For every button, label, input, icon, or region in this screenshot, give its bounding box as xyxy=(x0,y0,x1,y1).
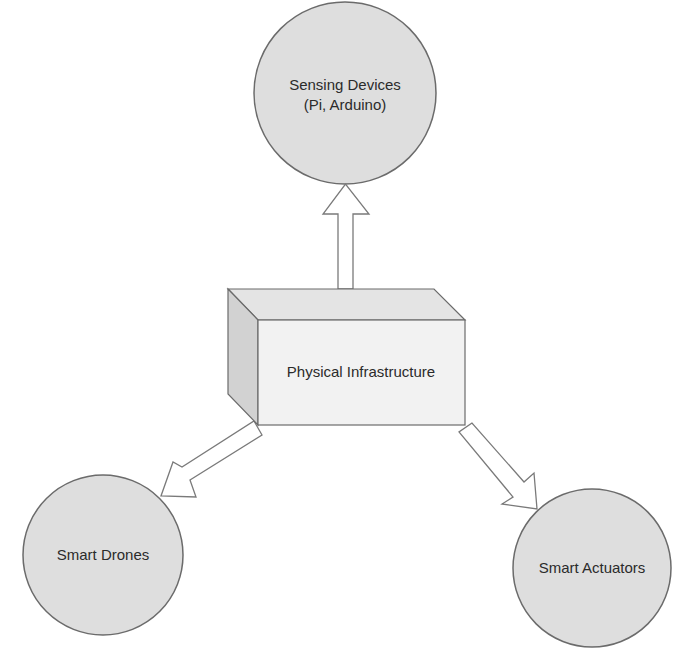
node-smart-drones[interactable]: Smart Drones xyxy=(23,475,183,635)
node-sensing-devices[interactable]: Sensing Devices (Pi, Arduino) xyxy=(254,2,436,184)
node-label: Physical Infrastructure xyxy=(287,363,435,380)
arrow-to-smart-drones xyxy=(161,421,262,497)
arrow-to-sensing-devices xyxy=(323,184,369,289)
box-top-face xyxy=(228,289,465,320)
diagram-canvas: Sensing Devices (Pi, Arduino) Physical I… xyxy=(0,0,690,666)
arrow-to-smart-actuators xyxy=(459,423,537,509)
node-physical-infrastructure[interactable]: Physical Infrastructure xyxy=(228,289,465,425)
node-circle xyxy=(254,2,436,184)
node-label-line1: Sensing Devices xyxy=(289,76,401,93)
node-label: Smart Drones xyxy=(57,546,150,563)
node-label-line2: (Pi, Arduino) xyxy=(304,96,387,113)
node-smart-actuators[interactable]: Smart Actuators xyxy=(513,489,671,647)
node-label: Smart Actuators xyxy=(539,559,646,576)
